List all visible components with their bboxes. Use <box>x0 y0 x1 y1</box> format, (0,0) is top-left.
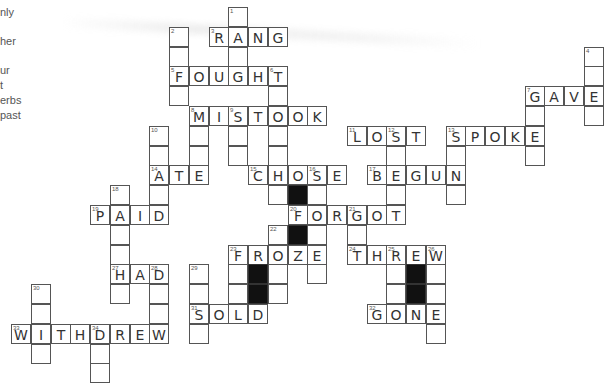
crossword-cell[interactable]: N <box>406 304 426 324</box>
crossword-cell[interactable]: 14A <box>149 165 169 185</box>
crossword-cell[interactable] <box>110 284 130 304</box>
crossword-cell[interactable] <box>90 363 110 383</box>
crossword-cell[interactable]: 28D <box>149 264 169 284</box>
crossword-cell[interactable] <box>268 146 288 166</box>
crossword-cell[interactable]: Z <box>288 245 308 265</box>
crossword-cell[interactable]: H <box>367 245 387 265</box>
crossword-cell[interactable] <box>347 225 367 245</box>
crossword-cell[interactable] <box>189 146 209 166</box>
crossword-cell[interactable]: U <box>209 66 229 86</box>
crossword-cell[interactable]: 23F <box>228 245 248 265</box>
crossword-cell[interactable]: O <box>189 66 209 86</box>
crossword-cell[interactable]: D <box>248 304 268 324</box>
crossword-cell[interactable] <box>189 284 209 304</box>
crossword-cell[interactable]: T <box>248 106 268 126</box>
crossword-cell[interactable]: I <box>31 324 51 344</box>
crossword-cell[interactable] <box>90 344 110 364</box>
crossword-cell[interactable]: A <box>110 205 130 225</box>
crossword-cell[interactable] <box>268 264 288 284</box>
crossword-cell[interactable] <box>149 185 169 205</box>
crossword-cell[interactable] <box>584 106 604 126</box>
crossword-cell[interactable]: T <box>51 324 71 344</box>
crossword-cell[interactable]: 17B <box>367 165 387 185</box>
crossword-cell[interactable]: 8M <box>189 106 209 126</box>
crossword-cell[interactable] <box>169 86 189 106</box>
crossword-cell[interactable] <box>149 146 169 166</box>
crossword-cell[interactable]: A <box>544 86 564 106</box>
crossword-cell[interactable]: O <box>386 304 406 324</box>
crossword-cell[interactable]: O <box>367 205 387 225</box>
crossword-cell[interactable]: E <box>584 86 604 106</box>
crossword-cell[interactable]: E <box>525 126 545 146</box>
crossword-cell[interactable]: 31S <box>189 304 209 324</box>
crossword-cell[interactable]: O <box>209 304 229 324</box>
crossword-cell[interactable]: N <box>248 27 268 47</box>
crossword-cell[interactable]: D <box>149 205 169 225</box>
crossword-cell[interactable]: K <box>307 106 327 126</box>
crossword-cell[interactable]: A <box>130 264 150 284</box>
crossword-cell[interactable]: O <box>485 126 505 146</box>
crossword-cell[interactable] <box>149 304 169 324</box>
crossword-cell[interactable]: 7G <box>525 86 545 106</box>
crossword-cell[interactable]: 29 <box>189 264 209 284</box>
crossword-cell[interactable]: 15C <box>248 165 268 185</box>
crossword-cell[interactable]: 26W <box>426 245 446 265</box>
crossword-cell[interactable] <box>228 284 248 304</box>
crossword-cell[interactable] <box>386 185 406 205</box>
crossword-cell[interactable]: E <box>327 165 347 185</box>
crossword-cell[interactable]: L <box>228 304 248 324</box>
crossword-cell[interactable]: 24T <box>347 245 367 265</box>
crossword-cell[interactable] <box>307 225 327 245</box>
crossword-cell[interactable] <box>386 146 406 166</box>
crossword-cell[interactable] <box>307 185 327 205</box>
crossword-cell[interactable]: 20F <box>288 205 308 225</box>
crossword-cell[interactable]: E <box>189 165 209 185</box>
crossword-cell[interactable] <box>268 284 288 304</box>
crossword-cell[interactable]: 32G <box>367 304 387 324</box>
crossword-cell[interactable] <box>426 284 446 304</box>
crossword-cell[interactable]: O <box>268 245 288 265</box>
crossword-cell[interactable] <box>169 47 189 67</box>
crossword-cell[interactable]: 34D <box>90 324 110 344</box>
crossword-cell[interactable]: V <box>564 86 584 106</box>
crossword-cell[interactable]: 21G <box>347 205 367 225</box>
crossword-cell[interactable] <box>268 86 288 106</box>
crossword-cell[interactable]: E <box>406 245 426 265</box>
crossword-cell[interactable] <box>110 225 130 245</box>
crossword-cell[interactable] <box>189 126 209 146</box>
crossword-cell[interactable]: 13S <box>446 126 466 146</box>
crossword-cell[interactable] <box>268 185 288 205</box>
crossword-cell[interactable]: 27H <box>110 264 130 284</box>
crossword-cell[interactable]: O <box>268 106 288 126</box>
crossword-cell[interactable]: K <box>505 126 525 146</box>
crossword-cell[interactable]: G <box>228 66 248 86</box>
crossword-cell[interactable] <box>386 264 406 284</box>
crossword-cell[interactable]: 3R <box>209 27 229 47</box>
crossword-cell[interactable]: 1 <box>228 7 248 27</box>
crossword-cell[interactable] <box>228 146 248 166</box>
crossword-cell[interactable]: T <box>406 126 426 146</box>
crossword-cell[interactable] <box>525 146 545 166</box>
crossword-cell[interactable] <box>426 324 446 344</box>
crossword-cell[interactable]: T <box>169 165 189 185</box>
crossword-cell[interactable]: O <box>288 165 308 185</box>
crossword-cell[interactable]: R <box>327 205 347 225</box>
crossword-cell[interactable] <box>189 324 209 344</box>
crossword-cell[interactable]: N <box>446 165 466 185</box>
crossword-cell[interactable]: H <box>248 66 268 86</box>
crossword-cell[interactable]: 11L <box>347 126 367 146</box>
crossword-cell[interactable]: I <box>209 106 229 126</box>
crossword-cell[interactable]: E <box>307 245 327 265</box>
crossword-cell[interactable] <box>446 146 466 166</box>
crossword-cell[interactable]: 10 <box>149 126 169 146</box>
crossword-cell[interactable] <box>446 185 466 205</box>
crossword-cell[interactable]: O <box>288 106 308 126</box>
crossword-cell[interactable]: A <box>228 27 248 47</box>
crossword-cell[interactable] <box>386 284 406 304</box>
crossword-cell[interactable] <box>31 344 51 364</box>
crossword-cell[interactable]: G <box>268 27 288 47</box>
crossword-cell[interactable] <box>31 304 51 324</box>
crossword-cell[interactable]: E <box>426 304 446 324</box>
crossword-cell[interactable]: H <box>268 165 288 185</box>
crossword-cell[interactable]: 33W <box>11 324 31 344</box>
